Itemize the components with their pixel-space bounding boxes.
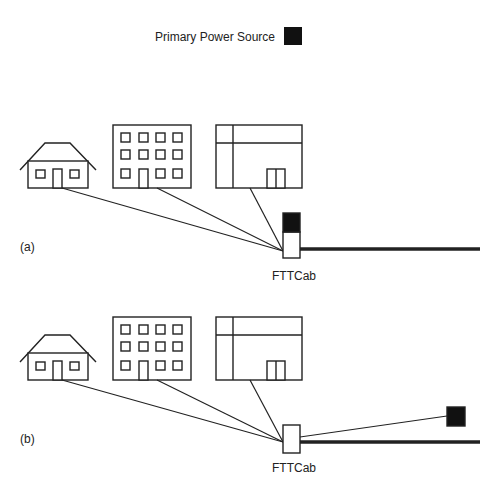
legend-label: Primary Power Source bbox=[155, 30, 275, 44]
fttcab-cabinet bbox=[283, 425, 300, 453]
house-icon bbox=[20, 143, 96, 188]
legend: Primary Power Source bbox=[155, 27, 302, 45]
drop-cables bbox=[62, 380, 283, 442]
power-source-legend-swatch bbox=[284, 27, 302, 45]
commercial-building-icon bbox=[216, 317, 302, 380]
commercial-building-icon bbox=[216, 125, 302, 188]
apartment-building-icon bbox=[113, 125, 191, 188]
power-feed-cable bbox=[300, 416, 447, 437]
apartment-building-icon bbox=[113, 317, 191, 380]
fttcab-cabinet bbox=[283, 232, 300, 258]
panel-a-label: (a) bbox=[20, 240, 35, 254]
house-icon bbox=[20, 335, 96, 380]
drop-cables bbox=[62, 188, 283, 251]
panel-a bbox=[20, 125, 480, 258]
power-source-on-cabinet bbox=[283, 213, 300, 232]
remote-power-source bbox=[447, 407, 465, 426]
fttcab-power-diagram: Primary Power Source bbox=[0, 0, 500, 491]
panel-b-cabinet-label: FTTCab bbox=[272, 461, 316, 475]
panel-a-cabinet-label: FTTCab bbox=[272, 269, 316, 283]
panel-b-label: (b) bbox=[20, 432, 35, 446]
panel-b bbox=[20, 317, 480, 453]
